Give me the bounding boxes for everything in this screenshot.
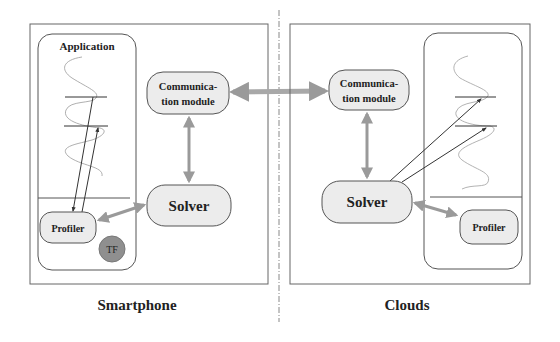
comm-link-arrow — [233, 91, 325, 92]
communication-module-node[interactable] — [147, 72, 229, 114]
application-label: Application — [59, 40, 114, 52]
tf-label: TF — [106, 244, 118, 255]
communication-module-label: tion module — [161, 96, 215, 107]
architecture-diagram: Application Profiler TF Communica- tion … — [0, 0, 560, 342]
smartphone-caption: Smartphone — [97, 297, 177, 313]
smartphone-panel: Application Profiler TF Communica- tion … — [30, 24, 268, 313]
communication-module-label: Communica- — [340, 78, 399, 89]
profiler-label: Profiler — [472, 222, 506, 233]
solver-label: Solver — [347, 194, 388, 210]
communication-module-label: Communica- — [159, 81, 218, 92]
communication-module-label: tion module — [342, 93, 396, 104]
clouds-panel: Communica- tion module Solver Profiler C… — [290, 24, 530, 313]
profiler-label: Profiler — [51, 223, 85, 234]
communication-module-node[interactable] — [329, 70, 409, 110]
solver-label: Solver — [169, 198, 210, 214]
clouds-caption: Clouds — [384, 297, 429, 313]
